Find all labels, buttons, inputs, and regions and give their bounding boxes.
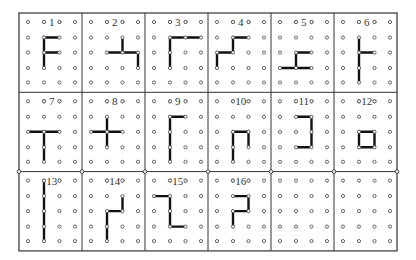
peg-dot <box>373 81 376 84</box>
peg-dot <box>136 66 139 69</box>
peg-dot <box>294 130 297 133</box>
peg-dot <box>168 36 171 39</box>
peg-dot <box>26 210 29 213</box>
peg-dot <box>184 66 187 69</box>
junction-circle <box>269 170 273 174</box>
peg-dot <box>184 225 187 228</box>
peg-dot <box>26 20 29 23</box>
peg-dot <box>310 81 313 84</box>
peg-dot <box>73 179 76 182</box>
peg-dot <box>215 66 218 69</box>
peg-dot <box>310 195 313 198</box>
peg-dot <box>231 51 234 54</box>
peg-dot <box>278 240 281 243</box>
peg-dot <box>89 160 92 163</box>
peg-dot <box>199 20 202 23</box>
figure-number-label: 3 <box>175 16 181 28</box>
peg-dot <box>325 20 328 23</box>
peg-dot <box>231 81 234 84</box>
peg-dot <box>357 20 360 23</box>
peg-dot <box>184 195 187 198</box>
peg-dot <box>325 51 328 54</box>
peg-dot <box>152 115 155 118</box>
peg-dot <box>136 195 139 198</box>
peg-dot <box>247 160 250 163</box>
peg-dot <box>215 210 218 213</box>
peg-dot <box>105 51 108 54</box>
peg-dot <box>152 51 155 54</box>
peg-dot <box>247 225 250 228</box>
figure-cell: 15 <box>152 175 202 243</box>
peg-dot <box>388 100 391 103</box>
peg-dot <box>199 115 202 118</box>
figure-cell: 11 <box>278 95 328 163</box>
peg-dot <box>184 240 187 243</box>
peg-dot <box>310 210 313 213</box>
peg-dot <box>373 100 376 103</box>
peg-dot <box>215 36 218 39</box>
peg-dot <box>152 20 155 23</box>
figure-cell: 9 <box>152 95 202 163</box>
peg-dot <box>341 240 344 243</box>
peg-dot <box>73 115 76 118</box>
peg-dot <box>152 225 155 228</box>
peg-dot <box>341 20 344 23</box>
peg-dot <box>357 100 360 103</box>
peg-dot <box>26 81 29 84</box>
peg-dot <box>184 51 187 54</box>
peg-dot <box>278 115 281 118</box>
peg-dot <box>357 115 360 118</box>
peg-dot <box>373 195 376 198</box>
figure-number-label: 8 <box>112 95 118 107</box>
peg-dot <box>152 66 155 69</box>
peg-dot <box>341 100 344 103</box>
peg-dot <box>341 225 344 228</box>
peg-dot <box>325 36 328 39</box>
peg-dot <box>73 195 76 198</box>
peg-dot <box>58 51 61 54</box>
peg-dot <box>247 146 250 149</box>
peg-dot <box>357 240 360 243</box>
peg-dot <box>278 225 281 228</box>
peg-dot <box>388 160 391 163</box>
peg-dot <box>341 51 344 54</box>
peg-dot <box>42 51 45 54</box>
peg-dot <box>231 100 234 103</box>
peg-dot <box>105 20 108 23</box>
peg-dot <box>58 81 61 84</box>
peg-dot <box>278 179 281 182</box>
peg-dot <box>42 130 45 133</box>
peg-dot <box>373 240 376 243</box>
peg-dot <box>89 146 92 149</box>
peg-dot <box>215 20 218 23</box>
peg-dot <box>294 225 297 228</box>
peg-dot <box>199 179 202 182</box>
peg-dot <box>26 160 29 163</box>
peg-dot <box>262 240 265 243</box>
peg-dot <box>278 81 281 84</box>
peg-dot <box>58 160 61 163</box>
peg-dot <box>278 100 281 103</box>
peg-dot <box>278 36 281 39</box>
peg-dot <box>199 225 202 228</box>
peg-dot <box>105 225 108 228</box>
peg-dot <box>136 36 139 39</box>
peg-dot <box>136 146 139 149</box>
peg-dot <box>215 100 218 103</box>
peg-dot <box>199 130 202 133</box>
peg-dot <box>26 51 29 54</box>
peg-dot <box>26 100 29 103</box>
peg-dot <box>325 240 328 243</box>
peg-dot <box>388 240 391 243</box>
peg-dot <box>262 146 265 149</box>
peg-dot <box>262 20 265 23</box>
figure-cell: 5 <box>278 16 328 84</box>
peg-dot <box>121 179 124 182</box>
figure-cell: 3 <box>152 16 202 84</box>
peg-dot <box>215 225 218 228</box>
peg-dot <box>294 179 297 182</box>
peg-dot <box>168 20 171 23</box>
figure-number-label: 5 <box>301 16 307 28</box>
peg-dot <box>357 179 360 182</box>
peg-dot <box>136 81 139 84</box>
